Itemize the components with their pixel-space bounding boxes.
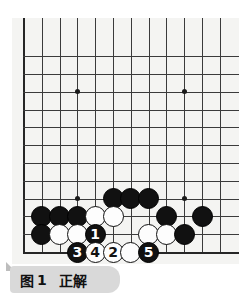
- grid-line-horizontal: [23, 56, 239, 57]
- go-stone-black[interactable]: [174, 224, 195, 245]
- caption-text-label: 正解: [59, 270, 87, 290]
- star-point: [75, 89, 80, 94]
- grid-line-horizontal: [23, 92, 239, 93]
- stone-move-number: 4: [86, 243, 105, 262]
- grid-line-horizontal: [23, 145, 239, 146]
- figure-caption: 图 1 正解: [10, 266, 120, 293]
- grid-line-horizontal: [23, 110, 239, 111]
- go-stone-black-move-5[interactable]: 5: [138, 242, 159, 263]
- stone-move-number: 5: [139, 243, 158, 262]
- grid-line-vertical: [149, 18, 150, 253]
- grid-line-horizontal: [23, 181, 239, 182]
- star-point: [182, 89, 187, 94]
- star-point: [75, 196, 80, 201]
- star-point: [182, 196, 187, 201]
- stone-move-number: 1: [86, 225, 105, 244]
- go-stone-black[interactable]: [192, 206, 213, 227]
- grid-line-vertical: [220, 18, 221, 253]
- grid-line-horizontal: [23, 127, 239, 128]
- go-board[interactable]: 13425: [12, 18, 239, 264]
- grid-line-vertical: [131, 18, 132, 253]
- caption-prefix-label: 图: [20, 270, 34, 290]
- grid-line-horizontal: [23, 74, 239, 75]
- go-stone-white[interactable]: [103, 206, 124, 227]
- grid-line-vertical: [184, 18, 185, 253]
- go-problem-figure: 13425 图 1 正解: [0, 0, 239, 299]
- grid-line-horizontal: [23, 163, 239, 164]
- grid-line-vertical: [23, 18, 25, 253]
- caption-number-label: 1: [37, 272, 47, 288]
